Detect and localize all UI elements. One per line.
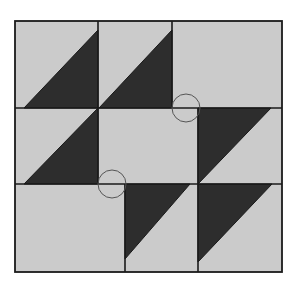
quilt-block-diagram [0,0,296,289]
